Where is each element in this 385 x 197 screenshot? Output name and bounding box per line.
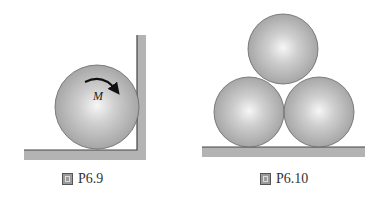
sphere	[55, 65, 139, 149]
floor-surface	[24, 150, 146, 160]
figure-char-icon	[260, 173, 271, 185]
moment-label: M	[92, 89, 104, 103]
sphere-bottom-left	[214, 77, 284, 147]
caption-p6-10: P6.10	[260, 170, 308, 188]
caption-label: P6.10	[276, 170, 308, 188]
floor-surface	[202, 147, 365, 157]
caption-label: P6.9	[78, 170, 103, 188]
diagram-canvas: M	[0, 0, 385, 197]
caption-p6-9: P6.9	[62, 170, 103, 188]
wall-surface	[137, 35, 146, 160]
sphere-bottom-right	[284, 77, 354, 147]
sphere-top	[248, 14, 318, 84]
figure-char-icon	[62, 173, 73, 185]
figure-p6-9: M	[24, 35, 146, 160]
figure-p6-10	[202, 14, 365, 157]
